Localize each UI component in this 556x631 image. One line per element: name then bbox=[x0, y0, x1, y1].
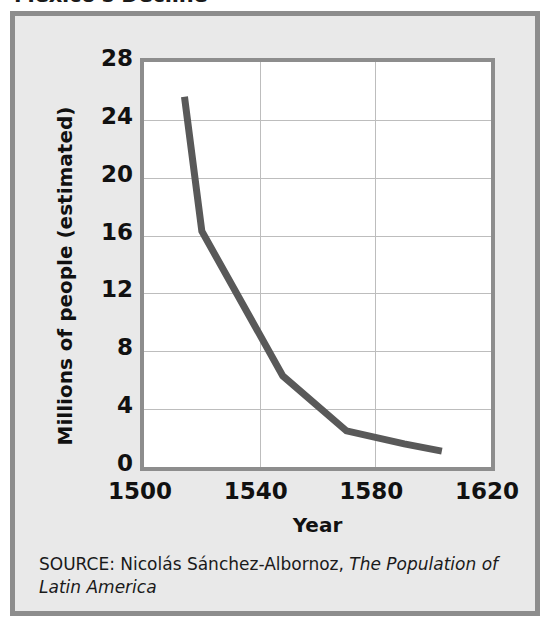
plot-inner bbox=[144, 62, 491, 467]
x-axis-tick-label: 1580 bbox=[326, 480, 416, 503]
y-axis-tick-label: 16 bbox=[73, 220, 133, 243]
plot-area bbox=[140, 58, 495, 471]
source-prefix: SOURCE: Nicolás Sánchez-Albornoz, bbox=[39, 554, 349, 574]
y-axis-tick-label: 4 bbox=[73, 394, 133, 417]
chart-figure: Mexico's Decline 0481216202428 150015401… bbox=[0, 0, 556, 631]
x-axis-tick-label: 1620 bbox=[442, 480, 532, 503]
y-axis-label: Millions of people (estimated) bbox=[53, 76, 77, 476]
x-axis-label: Year bbox=[140, 513, 495, 537]
x-axis-tick-labels: 1500154015801620 bbox=[140, 480, 495, 510]
y-axis-tick-label: 24 bbox=[73, 104, 133, 127]
source-note: SOURCE: Nicolás Sánchez-Albornoz, The Po… bbox=[39, 553, 519, 599]
x-axis-tick-label: 1540 bbox=[211, 480, 301, 503]
page-title: Mexico's Decline bbox=[14, 0, 208, 7]
y-axis-tick-label: 0 bbox=[73, 452, 133, 475]
y-axis-tick-label: 8 bbox=[73, 336, 133, 359]
y-axis-tick-label: 28 bbox=[73, 47, 133, 70]
figure-panel: 0481216202428 1500154015801620 Millions … bbox=[10, 11, 540, 616]
y-axis-tick-label: 20 bbox=[73, 162, 133, 185]
y-axis-tick-label: 12 bbox=[73, 278, 133, 301]
series-line-mexico-population bbox=[144, 62, 491, 467]
data-series-line bbox=[184, 97, 441, 451]
x-axis-tick-label: 1500 bbox=[95, 480, 185, 503]
